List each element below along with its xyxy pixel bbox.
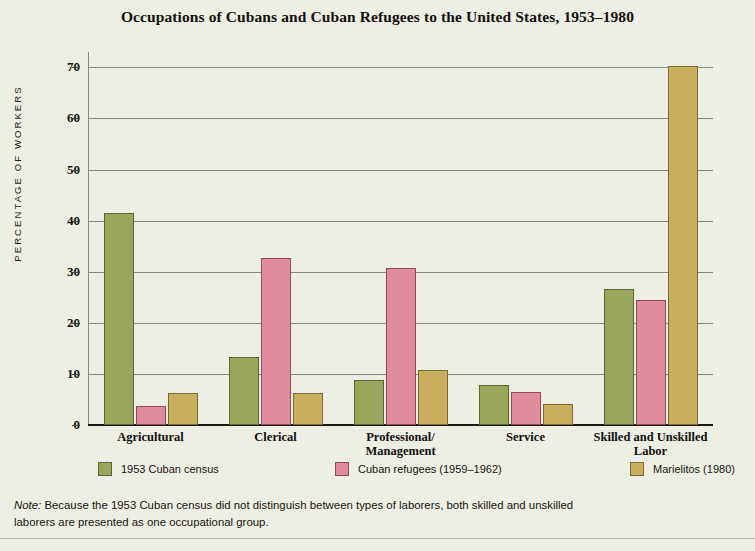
legend-label: 1953 Cuban census [121, 463, 219, 475]
bar-group [604, 52, 698, 425]
bottom-divider [0, 538, 755, 539]
x-axis-category-label: Clerical [213, 430, 338, 444]
chart-title: Occupations of Cubans and Cuban Refugees… [0, 8, 755, 26]
bar [136, 406, 166, 425]
category-label-line: Professional/ [338, 430, 463, 444]
category-label-line: Service [463, 430, 588, 444]
plot-area [88, 52, 713, 425]
legend-swatch [98, 462, 112, 476]
y-tick-mark-40 [72, 221, 80, 222]
bar [168, 393, 198, 425]
bar [511, 392, 541, 425]
legend-item[interactable]: Cuban refugees (1959–1962) [335, 462, 502, 476]
category-label-line: Labor [588, 444, 713, 458]
note-label: Note: [14, 499, 41, 511]
y-axis-title: PERCENTAGE OF WORKERS [12, 74, 23, 274]
chart-note: Note: Because the 1953 Cuban census did … [14, 497, 614, 530]
legend-item[interactable]: 1953 Cuban census [98, 462, 219, 476]
y-tick-mark-10 [72, 374, 80, 375]
x-axis-category-label: Service [463, 430, 588, 444]
bar [354, 380, 384, 425]
bar [104, 213, 134, 425]
legend-swatch [335, 462, 349, 476]
bar-group [479, 52, 573, 425]
legend-label: Marielitos (1980) [653, 463, 735, 475]
bar [604, 289, 634, 425]
chart-figure: Occupations of Cubans and Cuban Refugees… [0, 0, 755, 551]
legend-item[interactable]: Marielitos (1980) [630, 462, 735, 476]
category-label-line: Management [338, 444, 463, 458]
note-text: Because the 1953 Cuban census did not di… [14, 499, 573, 528]
bar [418, 370, 448, 425]
x-axis-category-label: Agricultural [88, 430, 213, 444]
y-tick-mark-60 [72, 118, 80, 119]
category-label-line: Agricultural [88, 430, 213, 444]
y-tick-mark-0 [72, 425, 80, 426]
x-axis-category-label: Professional/Management [338, 430, 463, 458]
y-tick-mark-50 [72, 170, 80, 171]
bar [479, 385, 509, 425]
bar [293, 393, 323, 425]
bar-group [229, 52, 323, 425]
bar-group [104, 52, 198, 425]
category-label-line: Skilled and Unskilled [588, 430, 713, 444]
bar [636, 300, 666, 425]
y-tick-mark-30 [72, 272, 80, 273]
x-axis-category-label: Skilled and UnskilledLabor [588, 430, 713, 458]
bar [668, 66, 698, 425]
category-label-line: Clerical [213, 430, 338, 444]
bar [229, 357, 259, 425]
bar [261, 258, 291, 425]
bar-group [354, 52, 448, 425]
bar [386, 268, 416, 425]
bar [543, 404, 573, 425]
y-tick-mark-20 [72, 323, 80, 324]
y-tick-mark-70 [72, 67, 80, 68]
legend-label: Cuban refugees (1959–1962) [358, 463, 502, 475]
legend-swatch [630, 462, 644, 476]
chart-legend: 1953 Cuban censusCuban refugees (1959–19… [0, 462, 755, 488]
